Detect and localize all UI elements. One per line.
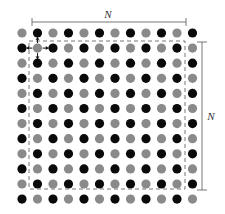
black-site-dot	[188, 59, 197, 68]
gray-site-dot	[172, 149, 181, 158]
gray-site-dot	[141, 89, 150, 98]
black-site-dot	[64, 149, 73, 158]
black-site-dot	[17, 164, 26, 173]
gray-site-dot	[95, 164, 104, 173]
black-site-dot	[33, 149, 42, 158]
gray-site-dot	[110, 119, 119, 128]
black-site-dot	[64, 89, 73, 98]
gray-site-dot	[17, 59, 26, 68]
black-site-dot	[17, 104, 26, 113]
black-site-dot	[172, 44, 181, 53]
right-dimension-label: N	[206, 110, 215, 122]
black-site-dot	[157, 59, 166, 68]
gray-site-dot	[141, 149, 150, 158]
gray-site-dot	[188, 164, 197, 173]
gray-site-dot	[33, 44, 42, 53]
gray-site-dot	[141, 179, 150, 188]
gray-site-dot	[95, 44, 104, 53]
black-site-dot	[141, 44, 150, 53]
black-site-dot	[64, 59, 73, 68]
black-site-dot	[17, 44, 26, 53]
black-site-dot	[141, 104, 150, 113]
black-site-dot	[110, 134, 119, 143]
gray-site-dot	[17, 89, 26, 98]
gray-site-dot	[33, 164, 42, 173]
black-site-dot	[17, 74, 26, 83]
gray-site-dot	[172, 28, 181, 37]
gray-site-dot	[48, 149, 57, 158]
black-site-dot	[126, 28, 135, 37]
gray-site-dot	[17, 179, 26, 188]
gray-site-dot	[79, 89, 88, 98]
black-site-dot	[95, 149, 104, 158]
gray-site-dot	[172, 179, 181, 188]
gray-site-dot	[79, 119, 88, 128]
top-dimension-label: N	[103, 8, 112, 20]
black-site-dot	[188, 28, 197, 37]
black-site-dot	[48, 195, 57, 204]
black-site-dot	[79, 74, 88, 83]
gray-site-dot	[64, 104, 73, 113]
gray-site-dot	[79, 179, 88, 188]
black-site-dot	[126, 149, 135, 158]
black-site-dot	[172, 164, 181, 173]
black-site-dot	[157, 89, 166, 98]
black-site-dot	[48, 44, 57, 53]
black-site-dot	[64, 28, 73, 37]
gray-site-dot	[172, 119, 181, 128]
black-site-dot	[33, 179, 42, 188]
black-site-dot	[126, 89, 135, 98]
black-site-dot	[157, 28, 166, 37]
black-site-dot	[33, 89, 42, 98]
black-site-dot	[141, 195, 150, 204]
gray-site-dot	[79, 149, 88, 158]
gray-site-dot	[188, 195, 197, 204]
lattice-diagram: N N	[0, 0, 225, 214]
gray-site-dot	[110, 59, 119, 68]
black-site-dot	[79, 164, 88, 173]
gray-site-dot	[172, 89, 181, 98]
gray-site-dot	[33, 195, 42, 204]
gray-site-dot	[157, 195, 166, 204]
black-site-dot	[95, 89, 104, 98]
black-site-dot	[172, 195, 181, 204]
black-site-dot	[95, 28, 104, 37]
gray-site-dot	[157, 44, 166, 53]
gray-site-dot	[17, 119, 26, 128]
black-site-dot	[79, 195, 88, 204]
black-site-dot	[110, 104, 119, 113]
gray-site-dot	[64, 134, 73, 143]
black-site-dot	[110, 44, 119, 53]
gray-site-dot	[157, 104, 166, 113]
gray-site-dot	[79, 28, 88, 37]
black-site-dot	[48, 104, 57, 113]
arrowhead-down-icon	[36, 56, 40, 59]
black-site-dot	[172, 104, 181, 113]
black-site-dot	[188, 89, 197, 98]
gray-site-dot	[141, 59, 150, 68]
gray-site-dot	[188, 44, 197, 53]
black-site-dot	[110, 74, 119, 83]
gray-site-dot	[126, 164, 135, 173]
black-site-dot	[48, 164, 57, 173]
black-site-dot	[48, 74, 57, 83]
black-site-dot	[33, 119, 42, 128]
right-dimension-bracket	[197, 42, 207, 190]
black-site-dot	[110, 164, 119, 173]
gray-site-dot	[110, 28, 119, 37]
black-site-dot	[188, 149, 197, 158]
black-site-dot	[17, 134, 26, 143]
gray-site-dot	[188, 104, 197, 113]
black-site-dot	[172, 134, 181, 143]
gray-site-dot	[48, 179, 57, 188]
black-site-dot	[157, 179, 166, 188]
black-site-dot	[17, 195, 26, 204]
gray-site-dot	[64, 44, 73, 53]
black-site-dot	[126, 119, 135, 128]
gray-site-dot	[157, 134, 166, 143]
black-site-dot	[79, 104, 88, 113]
black-site-dot	[110, 195, 119, 204]
gray-site-dot	[126, 195, 135, 204]
arrowhead-right-icon	[46, 46, 49, 50]
gray-site-dot	[64, 164, 73, 173]
